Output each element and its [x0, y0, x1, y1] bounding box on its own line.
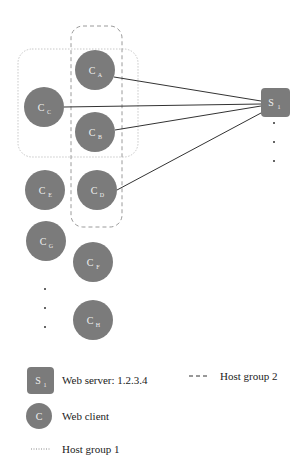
- legend-host-group-1-label: Host group 1: [62, 443, 119, 455]
- client-label-sub: C: [47, 109, 51, 115]
- client-label-sub: E: [48, 192, 52, 198]
- client-label-main: C: [91, 185, 98, 196]
- edge-ca-s1: [114, 77, 261, 101]
- client-label-sub: A: [98, 72, 103, 78]
- legend-host-group-2-label: Host group 2: [220, 370, 277, 382]
- client-label-main: C: [38, 102, 45, 113]
- client-node-cd: C D: [77, 170, 117, 210]
- client-label-main: C: [87, 257, 94, 268]
- network-diagram: S 1 C A C C C B C E C D C G: [0, 0, 305, 468]
- client-label-sub: G: [49, 243, 54, 249]
- client-node-cc: C C: [24, 87, 64, 127]
- server-node-s1: S 1: [261, 88, 290, 117]
- server-continuation-dots: [273, 122, 275, 162]
- client-node-cg: C G: [26, 221, 66, 261]
- server-label-main: S: [268, 97, 274, 108]
- legend-server-label: Web server: 1.2.3.4: [62, 374, 148, 386]
- client-node-cb: C B: [75, 112, 115, 152]
- client-label-sub: B: [98, 134, 102, 140]
- legend-client-item: C Web client: [26, 403, 109, 429]
- legend: S 1 Web server: 1.2.3.4 Host group 2 C W…: [26, 367, 277, 455]
- server-label-sub: 1: [278, 104, 281, 110]
- legend-client-label: Web client: [62, 410, 109, 422]
- svg-text:S: S: [268, 97, 274, 108]
- client-node-ch: C H: [73, 300, 113, 340]
- client-label-main: C: [89, 127, 96, 138]
- legend-server-item: S 1 Web server: 1.2.3.4: [27, 367, 148, 394]
- client-label-main: C: [89, 65, 96, 76]
- client-continuation-dots: [44, 288, 46, 328]
- client-node-cf: C F: [73, 242, 113, 282]
- svg-text:1: 1: [278, 104, 281, 110]
- client-label-main: C: [39, 185, 46, 196]
- legend-host-group-1-item: Host group 1: [31, 443, 119, 455]
- legend-server-icon-sub: 1: [44, 382, 47, 388]
- client-label-main: C: [87, 315, 94, 326]
- edge-cb-s1: [115, 106, 261, 130]
- client-label-sub: H: [96, 322, 101, 328]
- client-label-sub: D: [100, 192, 105, 198]
- client-node-ca: C A: [75, 50, 115, 90]
- edge-cc-s1: [64, 104, 261, 107]
- legend-host-group-2-item: Host group 2: [189, 370, 277, 382]
- client-label-main: C: [40, 236, 47, 247]
- legend-client-icon-main: C: [36, 411, 43, 422]
- client-node-ce: C E: [25, 170, 65, 210]
- legend-server-icon-main: S: [35, 375, 41, 386]
- edge-cd-s1: [117, 113, 261, 190]
